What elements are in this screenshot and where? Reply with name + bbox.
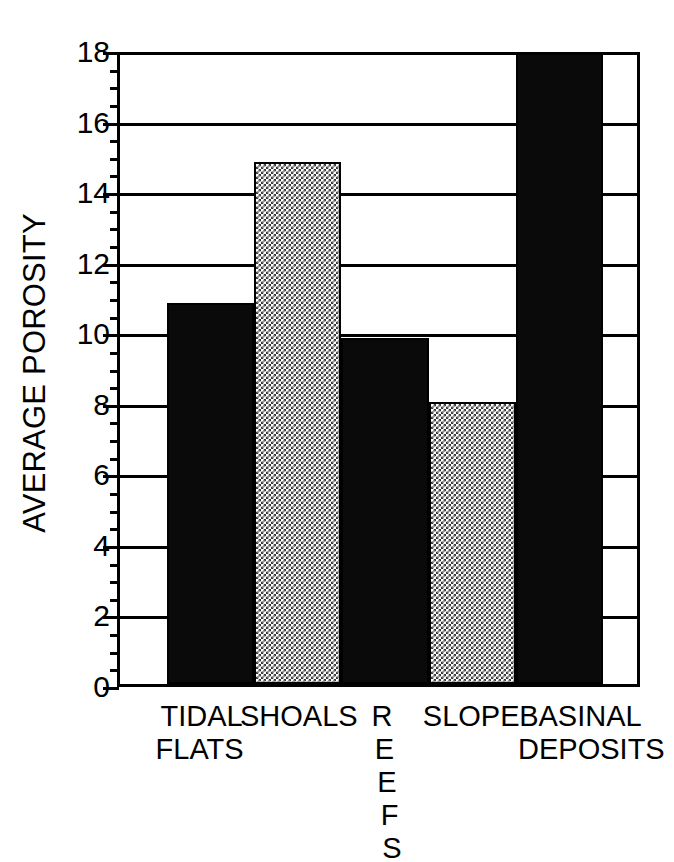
x-category-letter: E	[347, 733, 422, 766]
bar	[341, 338, 428, 684]
bar-series	[120, 55, 637, 684]
x-category-label-line: BASINAL	[465, 700, 674, 733]
x-axis-category-labels: TIDALFLATSSHOALSREEFSSLOPEBASINALDEPOSIT…	[0, 692, 674, 857]
x-category-letter: S	[362, 832, 422, 862]
bar	[254, 162, 341, 684]
y-tick-major	[103, 687, 119, 690]
bar	[429, 402, 516, 684]
bar-chart-figure: AVERAGE POROSITY 024681012141618 TIDALFL…	[0, 0, 674, 862]
x-category-label: BASINALDEPOSITS	[465, 700, 674, 766]
x-category-letter: F	[357, 799, 422, 832]
x-category-label-line: FLATS	[83, 733, 317, 766]
x-category-label-line: DEPOSITS	[487, 733, 674, 766]
x-category-letter: E	[352, 766, 422, 799]
bar	[516, 53, 603, 684]
bar	[167, 303, 254, 684]
plot-area	[117, 52, 640, 687]
